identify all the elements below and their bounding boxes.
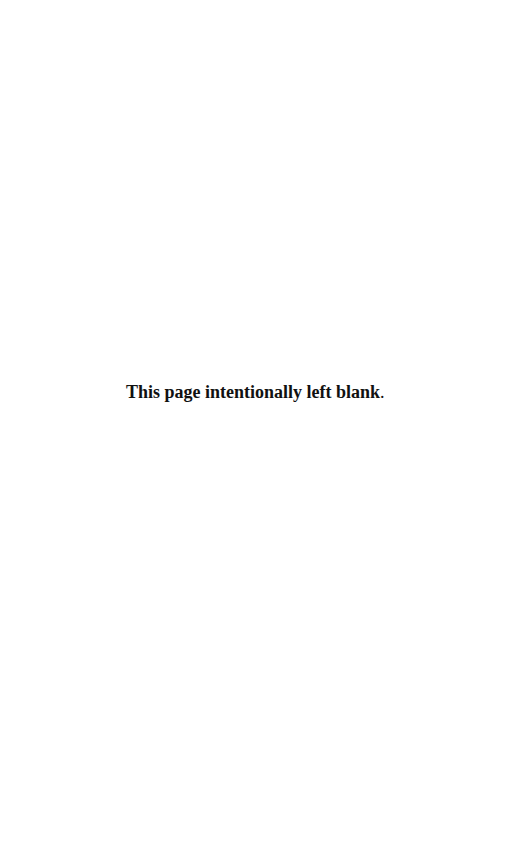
notice-text: This page intentionally left blank xyxy=(126,382,380,402)
blank-page-notice: This page intentionally left blank. xyxy=(126,382,385,402)
notice-period: . xyxy=(380,382,385,402)
blank-page: This page intentionally left blank. xyxy=(0,0,524,865)
